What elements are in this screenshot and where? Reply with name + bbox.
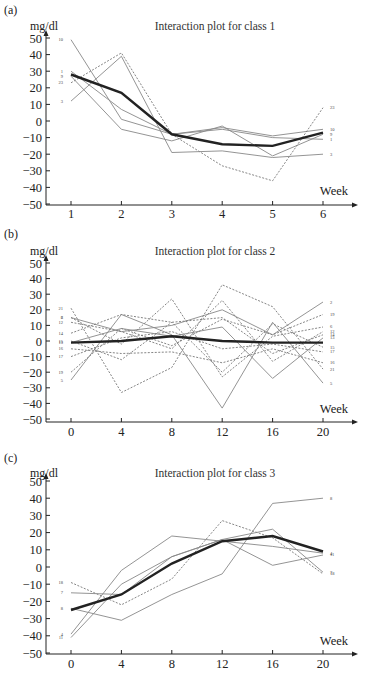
x-axis-arrow-icon bbox=[352, 652, 358, 657]
panel-label: (a) bbox=[4, 3, 17, 17]
y-tick-label: −30 bbox=[22, 612, 42, 626]
subject-label-left: 3 bbox=[61, 99, 64, 104]
y-tick-label: −40 bbox=[22, 397, 42, 411]
y-tick-label: 50 bbox=[30, 257, 43, 271]
y-tick-label: 10 bbox=[30, 319, 43, 333]
y-tick-label: 30 bbox=[30, 288, 43, 302]
x-tick-label: 20 bbox=[317, 425, 330, 439]
y-tick-label: −20 bbox=[22, 148, 42, 162]
interaction-plots: (a)mg/dlInteraction plot for class 15040… bbox=[0, 0, 365, 680]
chart-title: Interaction plot for class 3 bbox=[155, 467, 276, 480]
y-tick-label: 20 bbox=[30, 526, 43, 540]
y-tick-label: 50 bbox=[30, 32, 43, 46]
x-tick-label: 6 bbox=[320, 207, 326, 221]
y-tick-label: 0 bbox=[36, 115, 42, 129]
subject-label-right: 17 bbox=[330, 349, 335, 354]
subject-label-left: 17 bbox=[59, 354, 64, 359]
subject-label-right: 5 bbox=[330, 381, 333, 386]
subject-label-left: 12 bbox=[59, 320, 64, 325]
subject-label-right: 16 bbox=[330, 360, 335, 365]
subject-line-8 bbox=[71, 498, 323, 620]
y-tick-label: 30 bbox=[30, 509, 43, 523]
subject-label-left: 7 bbox=[61, 590, 64, 595]
subject-label-right: 23 bbox=[330, 105, 335, 110]
x-tick-label: 20 bbox=[317, 657, 330, 671]
subject-label-right: 13 bbox=[330, 335, 335, 340]
y-tick-label: −10 bbox=[22, 131, 42, 145]
subject-label-left: 9 bbox=[61, 74, 64, 79]
mean-line bbox=[71, 536, 323, 610]
subject-label-left: 11 bbox=[59, 635, 63, 640]
subject-label-left: 5 bbox=[61, 378, 64, 383]
x-tick-label: 3 bbox=[169, 207, 175, 221]
y-tick-label: 10 bbox=[30, 98, 43, 112]
subject-label-right: 8 bbox=[330, 496, 333, 501]
subject-label-left: 18 bbox=[59, 580, 64, 585]
x-tick-label: 4 bbox=[118, 425, 125, 439]
x-tick-label: 8 bbox=[169, 657, 175, 671]
y-tick-label: 10 bbox=[30, 543, 43, 557]
subject-line-17 bbox=[71, 332, 323, 357]
x-tick-label: 4 bbox=[219, 207, 226, 221]
y-tick-label: −30 bbox=[22, 164, 42, 178]
subject-label-left: 19 bbox=[59, 370, 64, 375]
x-axis-label: Week bbox=[320, 402, 349, 416]
chart-title: Interaction plot for class 2 bbox=[155, 245, 276, 258]
subject-line-11 bbox=[71, 540, 323, 638]
mean-line bbox=[71, 75, 323, 146]
x-axis-arrow-icon bbox=[352, 203, 358, 208]
x-axis-label: Week bbox=[320, 184, 349, 198]
y-tick-label: −10 bbox=[22, 578, 42, 592]
x-tick-label: 1 bbox=[68, 207, 74, 221]
y-tick-label: 30 bbox=[30, 65, 43, 79]
x-tick-label: 2 bbox=[118, 207, 124, 221]
y-tick-label: −50 bbox=[22, 198, 42, 212]
subject-line-4 bbox=[71, 536, 323, 634]
y-tick-label: −30 bbox=[22, 381, 42, 395]
x-axis-label: Week bbox=[320, 634, 349, 648]
x-tick-label: 0 bbox=[68, 425, 74, 439]
subject-label-left: 14 bbox=[59, 331, 64, 336]
x-tick-label: 12 bbox=[216, 657, 229, 671]
y-tick-label: −50 bbox=[22, 413, 42, 427]
y-tick-label: 0 bbox=[36, 561, 42, 575]
subject-label-right: 2 bbox=[330, 300, 332, 305]
subject-line-16 bbox=[71, 349, 323, 363]
subject-label-right: 11 bbox=[330, 552, 334, 557]
x-tick-label: 16 bbox=[266, 657, 279, 671]
y-tick-label: −40 bbox=[22, 629, 42, 643]
y-tick-label: 40 bbox=[30, 48, 43, 62]
chart-title: Interaction plot for class 1 bbox=[155, 20, 276, 33]
subject-label-left: 16 bbox=[59, 346, 64, 351]
subject-label-right: 19 bbox=[330, 312, 335, 317]
y-tick-label: 40 bbox=[30, 272, 43, 286]
y-tick-label: 0 bbox=[36, 335, 42, 349]
subject-label-left: 21 bbox=[59, 306, 64, 311]
y-tick-label: 50 bbox=[30, 475, 43, 489]
subject-label-left: 8 bbox=[61, 606, 64, 611]
figure: (a)mg/dlInteraction plot for class 15040… bbox=[0, 0, 365, 680]
y-tick-label: −40 bbox=[22, 181, 42, 195]
y-tick-label: 20 bbox=[30, 81, 43, 95]
panel-label: (b) bbox=[4, 227, 18, 241]
subject-label-left: 10 bbox=[59, 37, 64, 42]
x-tick-label: 16 bbox=[266, 425, 279, 439]
y-tick-label: 40 bbox=[30, 492, 43, 506]
subject-label-left: 23 bbox=[59, 80, 64, 85]
x-tick-label: 8 bbox=[169, 425, 175, 439]
subject-label-right: 9 bbox=[330, 132, 333, 137]
y-tick-label: −20 bbox=[22, 595, 42, 609]
subject-line-23 bbox=[71, 53, 323, 181]
panel-label: (c) bbox=[4, 451, 17, 465]
x-tick-label: 5 bbox=[269, 207, 275, 221]
y-tick-label: −20 bbox=[22, 366, 42, 380]
x-tick-label: 4 bbox=[118, 657, 125, 671]
x-tick-label: 0 bbox=[68, 657, 74, 671]
x-axis-arrow-icon bbox=[352, 420, 358, 425]
subject-label-right: 1 bbox=[330, 137, 332, 142]
y-tick-label: −50 bbox=[22, 647, 42, 661]
y-tick-label: 20 bbox=[30, 303, 43, 317]
x-tick-label: 12 bbox=[216, 425, 229, 439]
y-tick-label: −10 bbox=[22, 350, 42, 364]
subject-line-1 bbox=[71, 71, 323, 139]
